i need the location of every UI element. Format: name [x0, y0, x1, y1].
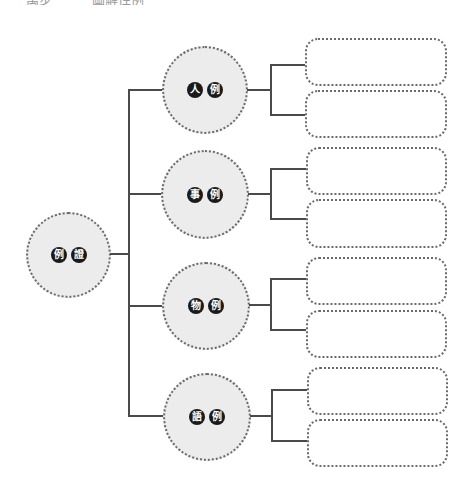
branch-line-3: [128, 305, 164, 307]
branch-4-out-line: [250, 415, 272, 417]
branch-1-out-line: [247, 89, 272, 91]
branch-3-fork-top: [270, 278, 307, 280]
branch-3-char-1: 物: [188, 298, 204, 314]
branch-node-object-example: 物 例: [162, 262, 250, 350]
answer-box-2b[interactable]: [306, 199, 447, 248]
answer-box-4a[interactable]: [307, 367, 448, 415]
answer-box-3b[interactable]: [306, 310, 447, 358]
branch-2-fork-bottom: [270, 218, 307, 220]
branch-2-char-1: 事: [187, 187, 203, 203]
header-left-text: 萬步: [26, 0, 52, 5]
branch-3-char-2: 例: [208, 298, 224, 314]
answer-box-3a[interactable]: [306, 257, 447, 305]
branch-4-fork-top: [271, 389, 308, 391]
answer-box-1b[interactable]: [305, 90, 447, 138]
answer-box-4b[interactable]: [307, 419, 448, 467]
answer-box-1a[interactable]: [305, 38, 447, 86]
root-node: 例 證: [26, 212, 111, 298]
branch-line-2: [128, 193, 164, 195]
branch-2-char-2: 例: [207, 187, 223, 203]
branch-2-fork-line: [270, 168, 272, 220]
branch-node-person-example: 人 例: [162, 46, 248, 134]
root-char-2: 證: [71, 247, 87, 263]
branch-4-char-1: 語: [189, 409, 205, 425]
branch-1-char-2: 例: [207, 82, 223, 98]
cropped-header: 萬步 圖解性例: [0, 0, 471, 5]
branch-4-fork-line: [271, 389, 273, 442]
branch-node-word-example: 語 例: [163, 373, 251, 461]
branch-1-char-1: 人: [187, 82, 203, 98]
branch-1-fork-bottom: [270, 114, 307, 116]
branch-4-char-2: 例: [209, 409, 225, 425]
branch-2-out-line: [248, 193, 272, 195]
branch-node-event-example: 事 例: [161, 150, 249, 239]
root-char-1: 例: [51, 247, 67, 263]
branch-1-fork-top: [270, 64, 307, 66]
branch-line-1: [128, 89, 164, 91]
branch-4-fork-bottom: [271, 440, 308, 442]
main-trunk-line: [128, 89, 130, 417]
header-right-text: 圖解性例: [92, 0, 144, 5]
branch-3-out-line: [249, 304, 272, 306]
branch-1-fork-line: [270, 64, 272, 116]
root-connector: [110, 253, 130, 255]
branch-2-fork-top: [270, 168, 307, 170]
answer-box-2a[interactable]: [306, 147, 447, 195]
branch-3-fork-bottom: [270, 329, 307, 331]
branch-3-fork-line: [270, 278, 272, 331]
branch-line-4: [128, 415, 164, 417]
